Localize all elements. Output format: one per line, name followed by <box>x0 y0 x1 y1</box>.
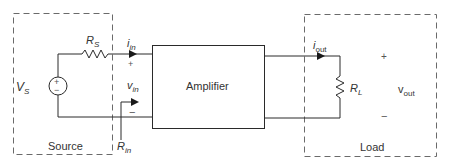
amplifier-block-label: Amplifier <box>186 81 229 92</box>
load-block-label: Load <box>360 142 384 153</box>
voltage-source-minus: − <box>54 86 59 95</box>
output-voltage-minus: − <box>381 111 387 122</box>
input-current-label: iin <box>127 38 136 49</box>
output-voltage-plus: + <box>381 52 387 62</box>
input-resistance-label: Rin <box>117 141 131 152</box>
source-resistor-label: RS <box>86 35 99 46</box>
load-resistor-label: RL <box>350 83 362 94</box>
input-resistance-arrow-icon <box>131 98 139 106</box>
load-resistor-zigzag <box>336 76 344 98</box>
input-voltage-label: vin <box>127 80 139 91</box>
load-boundary-box <box>305 15 437 157</box>
source-resistor-zigzag <box>82 50 108 58</box>
input-voltage-minus: − <box>129 107 135 118</box>
voltage-source-label: VS <box>16 81 29 93</box>
output-voltage-label: vout <box>398 84 415 95</box>
input-voltage-plus: + <box>128 60 133 69</box>
output-current-label: iout <box>313 40 327 51</box>
source-block-label: Source <box>48 141 83 152</box>
